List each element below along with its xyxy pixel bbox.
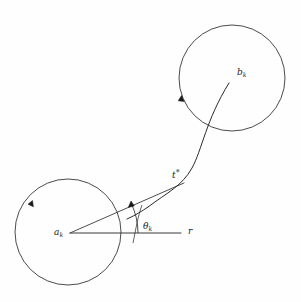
angle-arc-arrow-icon — [128, 201, 134, 207]
left-circle-orientation-arrow-icon — [28, 201, 33, 207]
label-ak-subscript: k — [59, 231, 63, 238]
label-angle-theta-k: θk — [143, 222, 152, 232]
segment-ak-to-tstar — [70, 183, 184, 233]
diagram-canvas — [0, 0, 301, 302]
label-source-center-ak: ak — [54, 228, 63, 238]
trajectory-curve — [148, 83, 229, 207]
label-target-center-bk: bk — [237, 68, 247, 78]
left-circle-source — [15, 179, 121, 285]
label-reference-ray-r: r — [188, 227, 192, 236]
geometric-diagram-figure: ak bk t* θk r — [0, 0, 301, 302]
right-circle-target — [179, 25, 285, 131]
angle-arc-theta-k — [131, 203, 138, 233]
label-r-base: r — [188, 226, 192, 236]
label-bk-subscript: k — [243, 71, 247, 78]
trajectory-curve-tail — [127, 207, 148, 219]
label-transition-point-t-star: t* — [172, 169, 180, 180]
label-t-superscript: * — [176, 168, 180, 177]
label-theta-subscript: k — [148, 225, 152, 232]
